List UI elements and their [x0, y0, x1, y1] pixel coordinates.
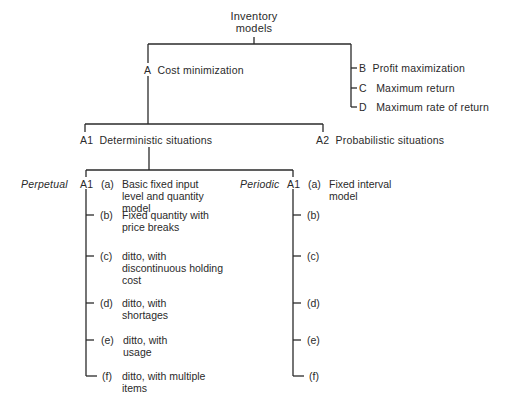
tree-connectors — [0, 0, 505, 400]
node-label: Deterministic situations — [100, 134, 213, 146]
perpetual-item-a-key: (a) — [101, 178, 114, 190]
perpetual-item-e-text: ditto, with usage — [123, 334, 167, 358]
node-code: D — [359, 101, 367, 113]
node-code: A — [144, 64, 151, 76]
periodic-code: A1 — [287, 178, 300, 190]
node-b-profit-maximization: B Profit maximization — [359, 62, 465, 74]
perpetual-item-b-key: (b) — [100, 209, 113, 221]
node-code: A2 — [316, 134, 329, 146]
root-title: Inventory — [214, 10, 294, 22]
perpetual-item-c-key: (c) — [100, 250, 112, 262]
node-label: Maximum rate of return — [376, 101, 489, 113]
perpetual-item-c-text: ditto, with discontinuous holding cost — [122, 250, 223, 286]
perpetual-item-d-text: ditto, with shortages — [122, 297, 168, 321]
node-d-maximum-rate-of-return: D Maximum rate of return — [359, 101, 489, 113]
node-label: Profit maximization — [372, 62, 465, 74]
node-code: A1 — [80, 134, 93, 146]
perpetual-item-e-key: (e) — [101, 334, 114, 346]
periodic-heading: Periodic — [240, 178, 280, 190]
perpetual-item-d-key: (d) — [100, 297, 113, 309]
perpetual-item-b-text: Fixed quantity with price breaks — [122, 209, 209, 233]
node-a1-deterministic: A1 Deterministic situations — [80, 134, 212, 146]
node-code: C — [359, 82, 367, 94]
perpetual-code: A1 — [80, 178, 93, 190]
node-label: Probabilistic situations — [336, 134, 445, 146]
periodic-item-a-text: Fixed interval model — [329, 178, 391, 202]
root-subtitle: models — [214, 22, 294, 34]
periodic-item-d-key: (d) — [307, 297, 320, 309]
node-label: Cost minimization — [157, 64, 243, 76]
periodic-item-a-key: (a) — [308, 178, 321, 190]
root-node: Inventory models — [214, 10, 294, 34]
node-a2-probabilistic: A2 Probabilistic situations — [316, 134, 444, 146]
node-code: B — [359, 62, 366, 74]
perpetual-item-f-key: (f) — [102, 370, 112, 382]
node-c-maximum-return: C Maximum return — [359, 82, 455, 94]
perpetual-item-f-text: ditto, with multiple items — [122, 370, 205, 394]
periodic-item-c-key: (c) — [307, 250, 319, 262]
periodic-item-b-key: (b) — [307, 209, 320, 221]
periodic-item-f-key: (f) — [309, 370, 319, 382]
node-a-cost-minimization: A Cost minimization — [144, 64, 244, 76]
perpetual-heading: Perpetual — [21, 178, 68, 190]
node-label: Maximum return — [376, 82, 455, 94]
periodic-item-e-key: (e) — [307, 334, 320, 346]
